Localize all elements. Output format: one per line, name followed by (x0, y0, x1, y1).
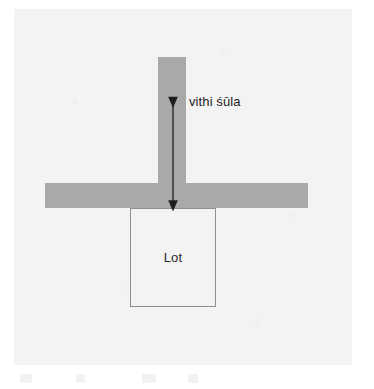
lot-label: Lot (131, 209, 215, 306)
vithi-shula-label: vithi śūla (189, 94, 241, 109)
page-bleed-mark (76, 374, 85, 383)
figure-root: Lot vithi śūla (0, 0, 374, 389)
vertical-road (158, 57, 186, 208)
lot-rectangle: Lot (130, 208, 216, 307)
page-bleed-text (14, 372, 344, 386)
page-bleed-mark (188, 374, 198, 383)
page-bleed-mark (142, 374, 156, 383)
page-bleed-mark (20, 374, 32, 383)
